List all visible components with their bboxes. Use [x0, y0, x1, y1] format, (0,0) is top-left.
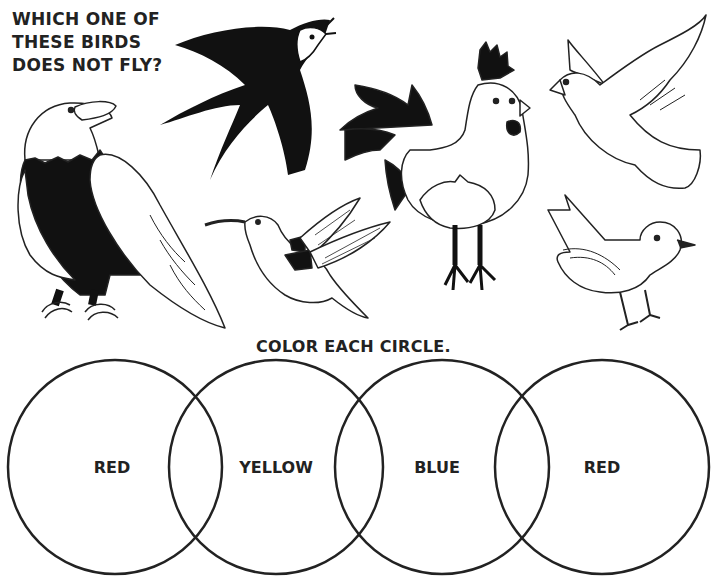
hummingbird-icon[interactable]: [205, 198, 390, 318]
swallow-icon[interactable]: [160, 18, 336, 180]
circle-label-red-left: RED: [94, 458, 131, 477]
circle-label-yellow: YELLOW: [239, 458, 313, 477]
instruction-text: COLOR EACH CIRCLE.: [256, 337, 451, 356]
dove-icon[interactable]: [550, 15, 706, 188]
bird-illustrations: [0, 0, 714, 588]
rooster-icon[interactable]: [340, 42, 530, 290]
circle-label-red-right: RED: [584, 458, 621, 477]
songbird-icon[interactable]: [548, 195, 695, 330]
circle-label-blue: BLUE: [414, 458, 460, 477]
eagle-icon[interactable]: [18, 102, 225, 328]
